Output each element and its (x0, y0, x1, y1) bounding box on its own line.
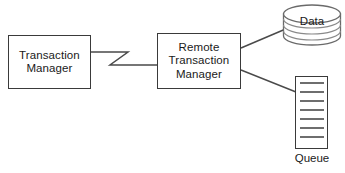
node-remote-transaction-manager[interactable]: Remote Transaction Manager (157, 33, 241, 89)
node-transaction-manager-label: Transaction Manager (19, 49, 80, 76)
queue-rows-icon (297, 77, 327, 147)
node-queue[interactable] (295, 76, 328, 149)
connector-rtm-to-queue (241, 70, 296, 92)
node-remote-transaction-manager-label: Remote Transaction Manager (169, 41, 230, 82)
connector-rtm-to-data (241, 28, 288, 48)
connector-tm-to-rtm (91, 52, 157, 65)
node-data-store-label: Data (282, 15, 342, 27)
node-data-store[interactable]: Data (282, 4, 342, 48)
node-transaction-manager[interactable]: Transaction Manager (8, 35, 91, 89)
diagram-canvas: Transaction Manager Remote Transaction M… (0, 0, 345, 173)
node-queue-label: Queue (283, 152, 341, 164)
